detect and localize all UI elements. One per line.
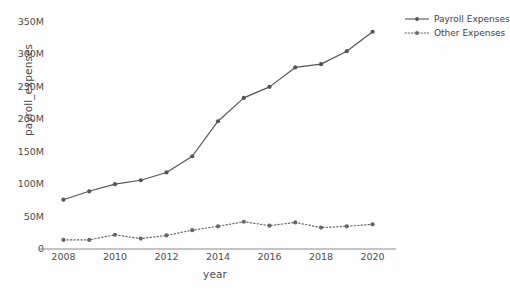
data-point-marker — [216, 119, 220, 123]
data-point-marker — [139, 178, 143, 182]
data-point-marker — [293, 65, 297, 69]
data-point-marker — [190, 154, 194, 158]
data-point-marker — [87, 189, 91, 193]
data-point-marker — [242, 96, 246, 100]
data-point-marker — [61, 198, 65, 202]
data-point-marker — [267, 224, 271, 228]
data-point-marker — [319, 62, 323, 66]
legend-sample-dotted-line-icon — [404, 28, 430, 38]
data-point-marker — [370, 30, 374, 34]
data-point-marker — [293, 220, 297, 224]
data-point-marker — [267, 85, 271, 89]
data-point-marker — [319, 226, 323, 230]
data-point-marker — [190, 228, 194, 232]
chart-legend: Payroll Expenses Other Expenses — [404, 12, 502, 40]
data-point-marker — [164, 233, 168, 237]
legend-item-payroll-expenses: Payroll Expenses — [404, 12, 502, 26]
legend-label-other-expenses: Other Expenses — [434, 29, 505, 38]
legend-item-other-expenses: Other Expenses — [404, 26, 502, 40]
data-point-marker — [242, 220, 246, 224]
data-point-marker — [139, 237, 143, 241]
data-point-marker — [113, 233, 117, 237]
data-point-marker — [216, 224, 220, 228]
series-line-payroll-expenses — [63, 32, 372, 200]
legend-label-payroll-expenses: Payroll Expenses — [434, 15, 510, 24]
legend-sample-solid-line-icon — [404, 14, 430, 24]
data-point-marker — [370, 222, 374, 226]
data-point-marker — [345, 224, 349, 228]
data-point-marker — [61, 238, 65, 242]
data-point-marker — [164, 170, 168, 174]
data-point-marker — [113, 182, 117, 186]
data-point-marker — [345, 49, 349, 53]
data-point-marker — [87, 238, 91, 242]
